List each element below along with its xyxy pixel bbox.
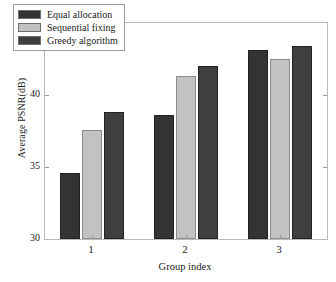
y-tick-label: 35: [14, 161, 40, 171]
x-tick-label: 3: [259, 243, 299, 255]
legend-item: Sequential fixing: [18, 21, 118, 34]
legend-item: Equal allocation: [18, 8, 118, 21]
bar: [104, 112, 124, 239]
x-tick-mark: [280, 235, 281, 239]
y-tick-mark: [45, 95, 49, 96]
bar: [292, 46, 312, 239]
legend-item: Greedy algorithm: [18, 34, 118, 47]
legend-swatch-greedy-algorithm: [18, 36, 41, 45]
x-tick-mark: [186, 235, 187, 239]
legend-label-sequential-fixing: Sequential fixing: [47, 22, 116, 33]
y-tick-mark: [323, 95, 327, 96]
bar: [270, 59, 290, 239]
legend-swatch-sequential-fixing: [18, 23, 41, 32]
x-tick-mark: [92, 235, 93, 239]
legend-label-greedy-algorithm: Greedy algorithm: [47, 35, 118, 46]
bar: [198, 66, 218, 239]
bar: [154, 115, 174, 239]
plot-area: [44, 22, 328, 240]
legend-label-equal-allocation: Equal allocation: [47, 9, 112, 20]
y-tick-label: 30: [14, 233, 40, 243]
x-axis-label: Group index: [40, 261, 330, 272]
y-tick-mark: [323, 167, 327, 168]
y-tick-mark: [45, 167, 49, 168]
y-tick-label: 40: [14, 89, 40, 99]
legend: Equal allocation Sequential fixing Greed…: [13, 4, 125, 51]
x-tick-label: 2: [165, 243, 205, 255]
bar: [176, 76, 196, 239]
bar: [60, 173, 80, 239]
bar: [82, 130, 102, 239]
x-tick-label: 1: [71, 243, 111, 255]
figure-canvas: Average PSNR(dB) Group index Equal alloc…: [0, 0, 336, 282]
legend-swatch-equal-allocation: [18, 10, 41, 19]
bar: [248, 50, 268, 239]
